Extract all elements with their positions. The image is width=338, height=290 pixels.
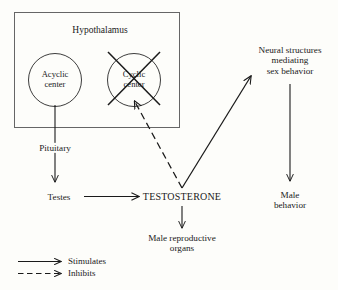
legend-label-stimulates: Stimulates	[68, 257, 106, 266]
edge-testosterone-inhibits-cyclic	[135, 101, 183, 188]
edge-testosterone-to-neural-structures	[182, 76, 251, 188]
diagram-graphics	[0, 0, 338, 290]
acyclic-center-circle	[29, 54, 82, 107]
cyclic-center-cross-out-icon	[108, 52, 160, 105]
legend-label-inhibits: Inhibits	[68, 269, 96, 278]
diagram-canvas: Hypothalamus Acyclic center Cyclic cente…	[0, 0, 338, 290]
hypothalamus-box	[15, 13, 180, 128]
cyclic-center-circle	[108, 54, 161, 107]
